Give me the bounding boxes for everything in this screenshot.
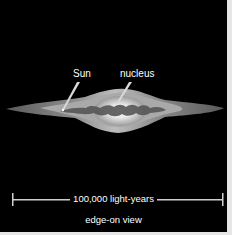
scale-bar-label: 100,000 light-years (0, 194, 227, 204)
sun-label: Sun (73, 69, 91, 79)
nucleus-label: nucleus (120, 69, 154, 79)
view-caption: edge-on view (0, 215, 227, 225)
galaxy-edge-on-diagram: Sun nucleus 100,000 light-years edge-on … (0, 0, 227, 232)
scale-bar-text: 100,000 light-years (70, 193, 157, 204)
sun-marker (62, 109, 64, 111)
